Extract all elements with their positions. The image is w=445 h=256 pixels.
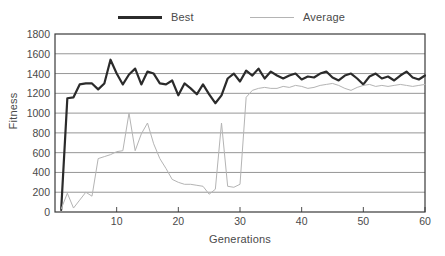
x-tick-20: 20 (158, 215, 198, 227)
y-tick-0: 0 (16, 206, 50, 218)
series-line-average (61, 83, 425, 209)
y-tick-200: 200 (16, 186, 50, 198)
y-tick-1000: 1000 (16, 107, 50, 119)
x-axis-title: Generations (55, 233, 425, 245)
x-tick-60: 60 (405, 215, 445, 227)
y-tick-1600: 1600 (16, 48, 50, 60)
y-tick-800: 800 (16, 127, 50, 139)
plot-area-wrapper: Fitness Generations 1800 1600 1400 1200 … (0, 0, 445, 256)
y-tick-1400: 1400 (16, 68, 50, 80)
x-axis-ticks (117, 207, 425, 212)
x-tick-30: 30 (220, 215, 260, 227)
data-series-group (61, 60, 425, 210)
y-tick-1800: 1800 (16, 28, 50, 40)
fitness-chart-figure: Best Average Fitness Generations 1800 16… (0, 0, 445, 256)
y-tick-1200: 1200 (16, 87, 50, 99)
grid-lines (55, 54, 425, 192)
x-tick-10: 10 (97, 215, 137, 227)
x-tick-40: 40 (282, 215, 322, 227)
y-tick-400: 400 (16, 166, 50, 178)
y-axis-tick-labels: 1800 1600 1400 1200 1000 800 600 400 200… (14, 0, 50, 256)
x-tick-50: 50 (343, 215, 383, 227)
y-tick-600: 600 (16, 147, 50, 159)
